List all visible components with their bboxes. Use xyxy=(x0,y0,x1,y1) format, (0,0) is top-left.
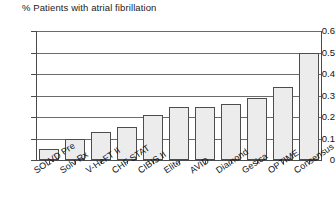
plot-area xyxy=(36,31,322,160)
y-axis-line xyxy=(36,31,37,161)
gridline xyxy=(36,74,322,75)
bar xyxy=(169,107,189,160)
y-axis-line-right xyxy=(321,31,322,161)
gridline xyxy=(36,53,322,54)
chart-title: % Patients with atrial fibrillation xyxy=(22,2,156,13)
gridline xyxy=(36,31,322,32)
bar xyxy=(273,87,293,160)
bar xyxy=(299,53,319,161)
bar xyxy=(195,107,215,160)
